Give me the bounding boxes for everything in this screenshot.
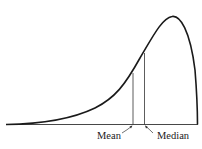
median-label: Median	[157, 130, 190, 141]
mean-arrowhead-icon	[130, 126, 133, 129]
distribution-curve	[6, 16, 198, 124]
skewed-distribution-diagram: Mean Median	[0, 0, 202, 149]
mean-label: Mean	[97, 130, 122, 141]
